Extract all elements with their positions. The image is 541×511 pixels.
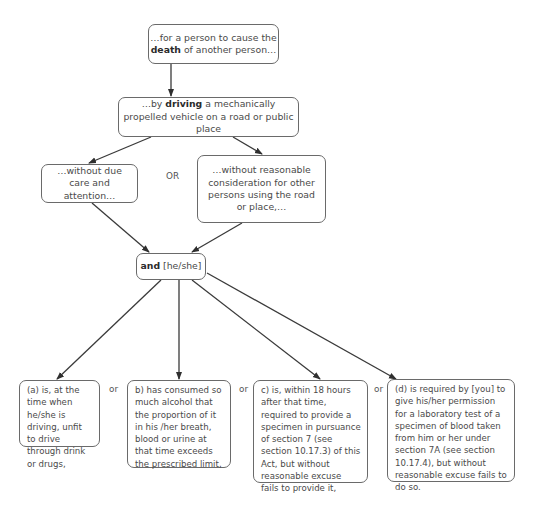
node-condition-c-text: c) is, within 18 hours after that time, …: [261, 384, 361, 495]
or-label-cd: or: [374, 384, 383, 394]
or-label-ab: or: [109, 384, 118, 394]
node-and-text: [he/she]: [160, 260, 201, 271]
node-due-care: …without due care and attention…: [41, 164, 138, 203]
node-due-care-text: …without due care and attention…: [48, 165, 131, 202]
node-consideration-text: …without reasonable consideration for ot…: [204, 164, 319, 214]
node-condition-b: b) has consumed so much alcohol that the…: [127, 380, 231, 468]
node-and-bold: and: [141, 260, 161, 271]
node-and: and [he/she]: [136, 253, 206, 280]
node-driving-bold: driving: [165, 98, 202, 109]
or-label-upper: OR: [166, 171, 179, 181]
node-death-text-pre: …for a person to cause the: [150, 32, 276, 43]
node-driving: …by driving a mechanically propelled veh…: [118, 97, 299, 137]
node-condition-a: (a) is, at the time when he/she is drivi…: [19, 380, 100, 447]
node-condition-c: c) is, within 18 hours after that time, …: [253, 380, 368, 483]
node-condition-d: (d) is required by [you] to give his/her…: [387, 379, 515, 482]
or-label-bc: or: [239, 384, 248, 394]
node-death: …for a person to cause the death of anot…: [148, 24, 279, 64]
node-death-bold: death: [151, 44, 181, 55]
node-condition-d-text: (d) is required by [you] to give his/her…: [395, 383, 508, 494]
node-condition-a-text: (a) is, at the time when he/she is drivi…: [27, 384, 93, 470]
node-death-text-post: of another person…: [181, 44, 276, 55]
node-driving-text-pre: …by: [142, 98, 166, 109]
node-consideration: …without reasonable consideration for ot…: [197, 155, 326, 223]
node-condition-b-text: b) has consumed so much alcohol that the…: [135, 384, 224, 470]
